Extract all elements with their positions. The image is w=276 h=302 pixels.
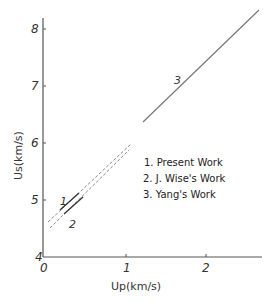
curve-label-3: 3 [174, 74, 181, 87]
chart-canvas: 8 7 6 5 4 0 1 2 Up(km/s) Us(km/s) 1 2 3 … [0, 0, 276, 302]
legend-item-1: 1. Present Work [144, 157, 223, 168]
y-tick-label: 8 [31, 22, 39, 36]
series-2-dashed-line [50, 150, 129, 228]
x-axis-label: Up(km/s) [111, 280, 161, 293]
y-tick-label: 6 [31, 136, 39, 150]
legend-item-3: 3. Yang's Work [143, 189, 216, 200]
series-3-line [143, 10, 259, 122]
y-tick-label: 5 [31, 193, 39, 207]
x-tick-label: 1 [123, 261, 131, 275]
y-tick-label: 7 [31, 79, 39, 93]
x-tick-label: 2 [202, 261, 210, 275]
x-tick-label: 0 [40, 261, 48, 275]
legend-item-2: 2. J. Wise's Work [143, 173, 226, 184]
y-axis-label: Us(km/s) [12, 131, 25, 180]
curve-label-2: 2 [69, 218, 76, 231]
legend: 1. Present Work 2. J. Wise's Work 3. Yan… [143, 157, 226, 200]
curve-label-1: 1 [60, 195, 67, 208]
